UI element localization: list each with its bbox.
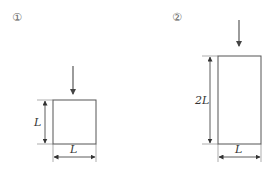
figure-2-marker: ②	[172, 11, 182, 24]
figure-2: ② 2L L	[172, 11, 261, 162]
figure-1: ① L L	[12, 11, 96, 162]
width-label: L	[69, 143, 77, 156]
height-label: L	[33, 116, 41, 129]
tall-block	[218, 56, 261, 144]
square-block	[53, 100, 96, 144]
height-label: 2L	[194, 94, 209, 107]
figure-1-marker: ①	[12, 11, 22, 24]
diagram-canvas: ① L L ② 2L L	[0, 0, 275, 175]
width-label: L	[234, 143, 242, 156]
